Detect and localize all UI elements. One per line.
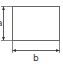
arrow-left-icon bbox=[13, 49, 17, 52]
rectangle-diagram bbox=[0, 0, 63, 66]
arrow-right-icon bbox=[56, 49, 60, 52]
arrow-up-icon bbox=[2, 7, 5, 11]
dimension-label-b: b bbox=[33, 54, 39, 63]
dimension-label-a: a bbox=[0, 19, 3, 28]
rectangle-shape bbox=[13, 7, 60, 41]
arrow-down-icon bbox=[2, 37, 5, 41]
